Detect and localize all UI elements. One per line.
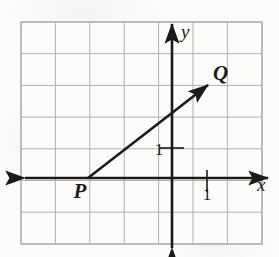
- y-axis-label: y: [179, 21, 190, 42]
- y-axis-tick-label: 1: [155, 140, 164, 159]
- grid-panel: [21, 22, 262, 244]
- point-label-q: Q: [213, 61, 228, 85]
- coordinate-plane-svg: y x 1 1 P Q: [0, 0, 279, 257]
- figure-coordinate-plane: y x 1 1 P Q: [0, 0, 279, 257]
- x-axis-tick-label: 1: [203, 185, 212, 204]
- point-label-p: P: [73, 179, 87, 203]
- grid-background: [21, 22, 262, 244]
- x-axis-label: x: [256, 174, 266, 195]
